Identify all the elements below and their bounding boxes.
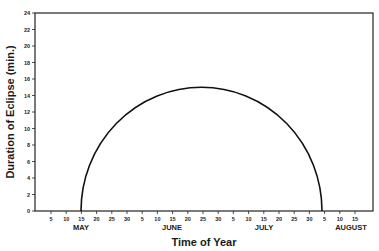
x-tick-label: 20: [185, 216, 191, 222]
x-tick-label: 25: [109, 216, 115, 222]
y-tick-label: 14: [24, 93, 31, 99]
x-tick-label: 10: [337, 216, 343, 222]
x-axis-ticks: 51015202530510152025305101520253051015: [49, 211, 358, 222]
plot-frame: [35, 13, 373, 211]
y-tick-label: 24: [24, 10, 31, 16]
y-tick-label: 12: [24, 109, 30, 115]
month-label: AUGUST: [335, 223, 367, 232]
x-tick-label: 5: [323, 216, 326, 222]
y-tick-label: 10: [24, 126, 30, 132]
x-tick-label: 15: [170, 216, 176, 222]
y-tick-label: 22: [24, 27, 30, 33]
x-tick-label: 5: [141, 216, 144, 222]
month-label: MAY: [73, 223, 89, 232]
month-label: JUNE: [162, 223, 182, 232]
y-tick-label: 2: [27, 192, 30, 198]
x-tick-label: 30: [124, 216, 130, 222]
y-tick-label: 16: [24, 76, 30, 82]
eclipse-duration-curve: [81, 87, 322, 211]
x-tick-label: 20: [276, 216, 282, 222]
x-tick-label: 10: [63, 216, 69, 222]
x-tick-label: 25: [291, 216, 297, 222]
y-axis-ticks: 024681012141618202224: [24, 10, 35, 214]
eclipse-duration-chart: 024681012141618202224 510152025305101520…: [0, 0, 379, 251]
y-tick-label: 4: [27, 175, 31, 181]
x-tick-label: 15: [78, 216, 84, 222]
y-tick-label: 0: [27, 208, 30, 214]
x-tick-label: 5: [49, 216, 52, 222]
x-tick-label: 25: [200, 216, 206, 222]
y-tick-label: 6: [27, 159, 30, 165]
x-tick-label: 5: [232, 216, 235, 222]
x-tick-label: 20: [94, 216, 100, 222]
month-labels: MAYJUNEJULYAUGUST: [73, 223, 367, 232]
x-tick-label: 30: [215, 216, 221, 222]
y-tick-label: 18: [24, 60, 30, 66]
x-tick-label: 15: [352, 216, 358, 222]
x-tick-label: 10: [246, 216, 252, 222]
y-axis-title: Duration of Eclipse (min.): [4, 45, 16, 179]
x-tick-label: 10: [154, 216, 160, 222]
x-axis-title: Time of Year: [171, 236, 237, 248]
x-tick-label: 30: [306, 216, 312, 222]
month-label: JULY: [255, 223, 273, 232]
y-tick-label: 8: [27, 142, 30, 148]
x-tick-label: 15: [261, 216, 267, 222]
y-tick-label: 20: [24, 43, 30, 49]
